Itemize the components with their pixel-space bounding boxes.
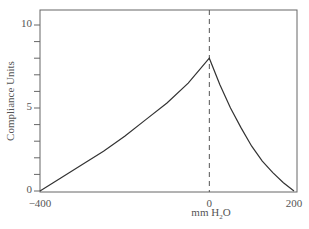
x-axis-title: mm H2O [191,206,230,221]
y-axis-ticks: 0510 [21,17,40,195]
x-tick-label: −400 [29,197,52,209]
compliance-curve [40,58,294,191]
chart: 0510 −4000200 Compliance Units mm H2O [0,0,309,229]
y-tick-label: 5 [27,100,33,112]
y-tick-label: 10 [21,17,33,29]
y-tick-label: 0 [27,183,33,195]
x-axis-tick-labels: −4000200 [29,197,303,209]
x-tick-label: 200 [286,197,303,209]
y-axis-title: Compliance Units [4,61,16,141]
